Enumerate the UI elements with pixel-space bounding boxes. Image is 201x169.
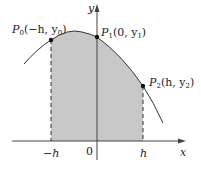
x-axis-label: x [180,146,187,159]
tick-label-zero: 0 [86,145,93,158]
tick-label-neg-h: −h [43,147,59,160]
point-p0 [49,38,53,42]
y-axis-label: y [87,2,95,15]
label-p1: P1(0, y1) [100,26,146,40]
x-axis-arrow-icon [178,139,186,144]
label-p0: P0(−h, y0) [11,23,66,37]
tick-label-pos-h: h [140,147,147,160]
point-p1 [95,35,99,39]
simpson-parabola-figure: P0(−h, y0) P1(0, y1) P2(h, y2) y x −h 0 … [0,0,201,169]
y-axis-arrow-icon [95,4,100,12]
point-p2 [141,84,145,88]
label-p2: P2(h, y2) [148,76,194,90]
